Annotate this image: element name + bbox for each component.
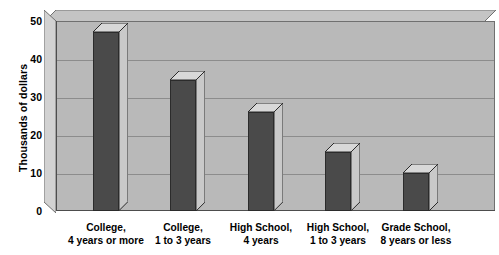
bar-front-face-1 bbox=[93, 32, 119, 211]
plot-left-face-3d bbox=[44, 10, 56, 213]
y-tick-label-20: 20 bbox=[18, 130, 42, 141]
y-tick-label-40: 40 bbox=[18, 54, 42, 65]
bar-side-face-3 bbox=[274, 103, 283, 211]
bar-2[interactable] bbox=[170, 71, 196, 211]
bar-1[interactable] bbox=[93, 23, 119, 211]
bar-side-face-2 bbox=[196, 71, 205, 211]
bar-front-face-5 bbox=[403, 173, 429, 211]
bar-5[interactable] bbox=[403, 164, 429, 211]
bar-front-face-3 bbox=[248, 112, 274, 211]
bar-chart: Thousands of dollars 01020304050 College… bbox=[0, 0, 499, 255]
bar-side-face-4 bbox=[351, 143, 360, 211]
bar-side-face-1 bbox=[119, 23, 128, 211]
y-axis-tick-labels: 01020304050 bbox=[18, 0, 42, 255]
y-tick-label-50: 50 bbox=[18, 16, 42, 27]
bar-3[interactable] bbox=[248, 103, 274, 211]
category-label-line1-5: Grade School, bbox=[361, 222, 471, 235]
y-tick-label-10: 10 bbox=[18, 168, 42, 179]
y-tick-label-0: 0 bbox=[18, 206, 42, 217]
category-label-5: Grade School,8 years or less bbox=[361, 222, 471, 247]
y-axis-line bbox=[56, 21, 57, 211]
bar-side-face-5 bbox=[429, 164, 438, 211]
y-tick-label-30: 30 bbox=[18, 92, 42, 103]
x-axis-category-labels: College,4 years or moreCollege,1 to 3 ye… bbox=[0, 222, 499, 255]
bar-front-face-2 bbox=[170, 80, 196, 211]
category-label-line2-5: 8 years or less bbox=[361, 235, 471, 248]
bar-4[interactable] bbox=[325, 143, 351, 211]
bar-front-face-4 bbox=[325, 152, 351, 211]
